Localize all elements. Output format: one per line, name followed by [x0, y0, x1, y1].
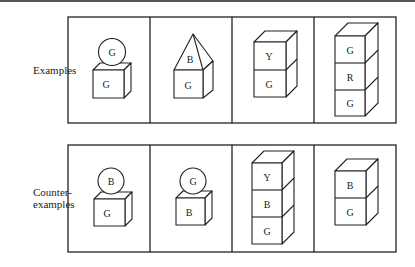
- block-side-face: [124, 63, 131, 98]
- block-color-label: G: [184, 80, 191, 91]
- counterexamples-row: B G G B Y B G: [68, 145, 396, 252]
- counterexample-ball-on-block: B G: [94, 168, 132, 226]
- counterexample-ball-on-block: G B: [176, 168, 212, 225]
- concept-learning-diagram: G G B G Y G: [0, 0, 415, 267]
- examples-row: G G B G Y G: [68, 17, 396, 123]
- example-two-block-stack: Y G: [254, 31, 297, 97]
- block-color-label: Y: [265, 51, 272, 62]
- ball-color-label: G: [108, 47, 115, 58]
- block-color-label: G: [265, 79, 272, 90]
- block-color-label: G: [346, 207, 353, 218]
- block-color-label: B: [347, 180, 354, 191]
- stack-side-face: [365, 23, 378, 116]
- block-color-label: B: [186, 207, 193, 218]
- stack-side-face: [282, 151, 294, 244]
- block-color-label: B: [264, 199, 271, 210]
- counterexample-three-block-stack: Y B G: [252, 151, 294, 244]
- example-pyramid-on-block: B G: [174, 34, 213, 98]
- block-color-label: G: [346, 45, 353, 56]
- block-color-label: G: [263, 226, 270, 237]
- block-color-label: Y: [263, 172, 270, 183]
- block-color-label: G: [346, 98, 353, 109]
- pyramid: [174, 34, 213, 70]
- block-color-label: R: [347, 72, 354, 83]
- block-color-label: G: [102, 79, 109, 90]
- ball-color-label: G: [189, 176, 196, 187]
- ball-color-label: B: [108, 176, 115, 187]
- example-three-block-stack: G R G: [335, 23, 378, 116]
- counterexample-two-block-stack: B G: [335, 159, 378, 225]
- block-color-label: G: [103, 208, 110, 219]
- example-ball-on-block: G G: [93, 39, 131, 99]
- pyramid-color-label: B: [187, 54, 194, 65]
